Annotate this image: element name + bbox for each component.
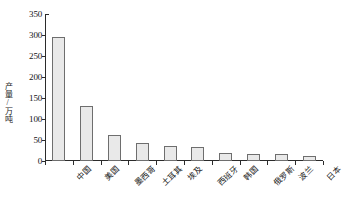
y-axis-tick-mark — [42, 140, 46, 141]
y-axis-tick-mark — [42, 98, 46, 99]
y-axis-tick-label: 350 — [12, 9, 42, 19]
x-axis-category-label: 墨西哥 — [132, 163, 157, 188]
x-axis-category-label: 西班牙 — [215, 163, 240, 188]
x-axis-category-label: 日本 — [324, 163, 343, 182]
y-axis-tick-label: 300 — [12, 30, 42, 40]
bar — [275, 154, 288, 161]
x-axis-category-label: 美国 — [101, 163, 120, 182]
y-axis-tick-label: 200 — [12, 72, 42, 82]
x-axis-category-label: 俄罗斯 — [271, 163, 296, 188]
y-axis-tick-label: 150 — [12, 93, 42, 103]
bar — [108, 135, 121, 161]
x-axis-category-label: 埃及 — [185, 163, 204, 182]
bar — [303, 156, 316, 161]
x-axis-category-labels: 中国美国墨西哥土耳其埃及西班牙韩国俄罗斯波兰日本 — [45, 163, 337, 209]
bar — [219, 153, 232, 161]
bar — [136, 143, 149, 161]
x-axis-category-label: 韩国 — [240, 163, 259, 182]
y-axis-tick-label: 0 — [12, 156, 42, 166]
y-axis-tick-mark — [42, 119, 46, 120]
y-axis-tick-mark — [42, 77, 46, 78]
bar — [247, 154, 260, 161]
y-axis-tick-labels: 050100150200250300350 — [12, 0, 42, 209]
plot-area — [45, 14, 323, 161]
bar — [191, 147, 204, 161]
x-axis-category-label: 土耳其 — [159, 163, 184, 188]
y-axis-line — [45, 14, 46, 161]
y-axis-tick-mark — [42, 35, 46, 36]
bar — [164, 146, 177, 161]
y-axis-tick-label: 250 — [12, 51, 42, 61]
y-axis-tick-label: 50 — [12, 135, 42, 145]
x-axis-category-label: 中国 — [74, 163, 93, 182]
bar — [52, 37, 65, 161]
y-axis-tick-mark — [42, 56, 46, 57]
bar — [80, 106, 93, 161]
y-axis-tick-label: 100 — [12, 114, 42, 124]
y-axis-top-cap — [45, 14, 49, 15]
x-axis-category-label: 波兰 — [296, 163, 315, 182]
